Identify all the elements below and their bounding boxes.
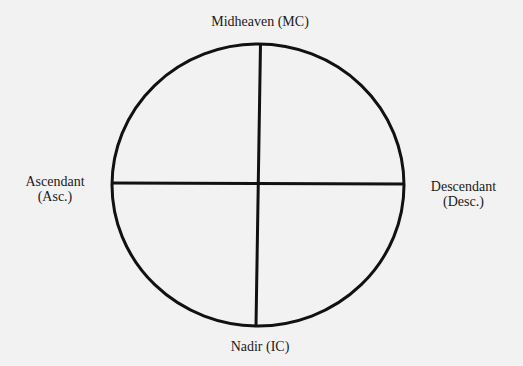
midheaven-label: Midheaven (MC) (190, 14, 330, 29)
descendant-label-abbr: (Desc.) (404, 194, 523, 209)
descendant-label-name: Descendant (404, 179, 523, 194)
nadir-label-text: Nadir (IC) (200, 339, 320, 354)
ascendant-label-abbr: (Asc.) (0, 189, 110, 204)
midheaven-label-text: Midheaven (MC) (190, 14, 330, 29)
ascendant-label: Ascendant (Asc.) (0, 174, 110, 204)
nadir-label: Nadir (IC) (200, 339, 320, 354)
ascendant-label-name: Ascendant (0, 174, 110, 189)
descendant-label: Descendant (Desc.) (404, 179, 523, 209)
